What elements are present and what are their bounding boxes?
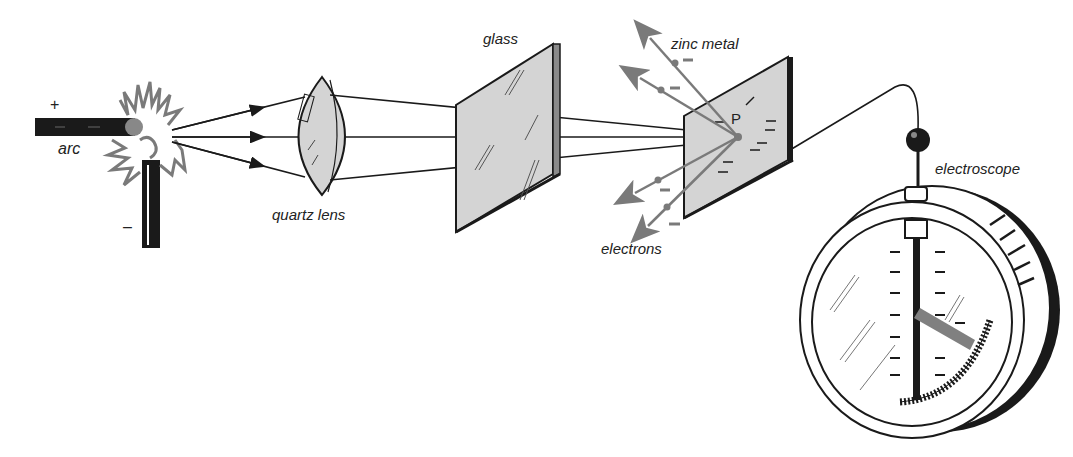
light-rays-incident	[172, 97, 305, 177]
zinc-metal-plate	[684, 57, 793, 218]
electroscope	[800, 128, 1060, 438]
electrons	[655, 60, 679, 211]
diagram-canvas	[0, 0, 1073, 457]
electrons-label: electrons	[601, 240, 662, 257]
positive-rod	[35, 118, 135, 136]
positive-terminal-label: +	[50, 96, 59, 114]
zinc-metal-label: zinc metal	[671, 35, 739, 52]
electroscope-knob	[906, 128, 930, 152]
point-p-label: P	[731, 110, 741, 127]
connecting-wire	[790, 85, 918, 150]
electroscope-label: electroscope	[935, 160, 1020, 177]
arc-label: arc	[58, 140, 80, 158]
negative-rod	[142, 160, 160, 248]
glass-plate	[456, 44, 560, 232]
quartz-lens-label: quartz lens	[272, 206, 345, 223]
glass-label: glass	[483, 30, 518, 47]
negative-terminal-label: –	[123, 218, 132, 236]
